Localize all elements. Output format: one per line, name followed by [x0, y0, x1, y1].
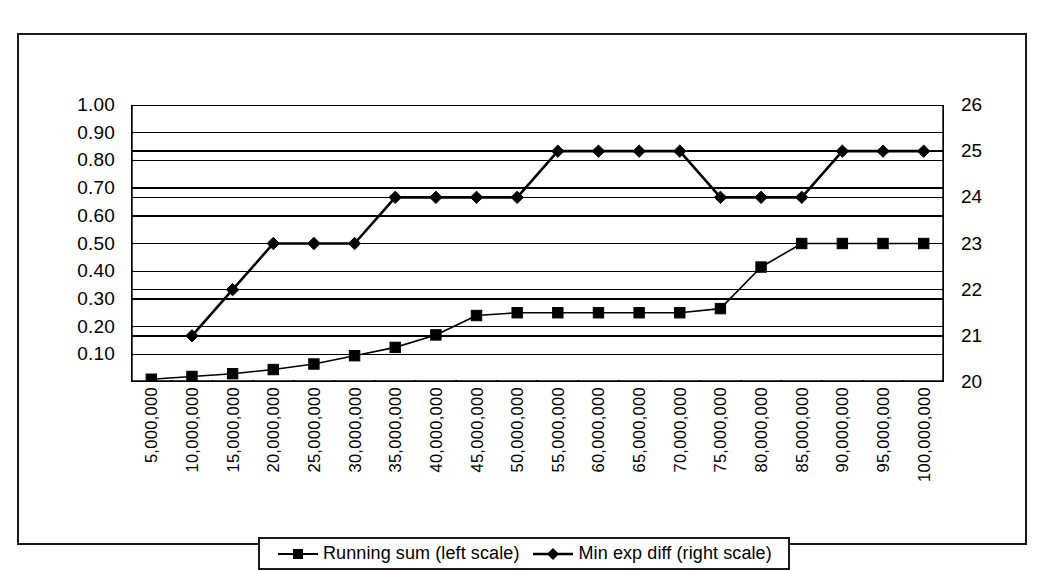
right-axis-tick-label: 24 — [961, 186, 982, 208]
legend-item-label: Running sum (left scale) — [323, 543, 519, 564]
left-axis-tick-label: 0.50 — [77, 233, 115, 255]
data-point-diamond — [917, 145, 929, 157]
x-axis-tick-label: 35,000,000 — [386, 387, 405, 473]
right-axis-tick-label: 23 — [961, 233, 982, 255]
data-point-square — [918, 238, 928, 248]
data-point-square — [797, 238, 807, 248]
left-axis-tick-label: 0.60 — [77, 205, 115, 227]
left-axis-tick-label: 0.70 — [77, 177, 115, 199]
data-point-diamond — [308, 237, 320, 249]
left-axis-tick-label: 0.90 — [77, 122, 115, 144]
left-axis-tick-label: 0.30 — [77, 288, 115, 310]
x-axis-tick-label: 50,000,000 — [508, 387, 527, 473]
x-axis-tick-label: 55,000,000 — [548, 387, 567, 473]
x-axis-tick-label: 80,000,000 — [752, 387, 771, 473]
data-point-square — [756, 262, 766, 272]
x-axis-tick-label: 60,000,000 — [589, 387, 608, 473]
data-point-square — [553, 308, 563, 318]
chart-frame: 0.100.200.300.400.500.600.700.800.901.00… — [17, 33, 1027, 545]
right-axis-tick-label: 25 — [961, 140, 982, 162]
right-axis-tick-label: 20 — [961, 371, 982, 393]
left-axis-tick-label: 1.00 — [77, 94, 115, 116]
left-axis-tick-label: 0.20 — [77, 316, 115, 338]
legend-square-icon — [276, 545, 320, 563]
data-point-diamond — [470, 191, 482, 203]
right-axis-tick-label: 26 — [961, 94, 982, 116]
x-axis-tick-label: 5,000,000 — [142, 387, 161, 463]
chart-plot-svg — [131, 105, 944, 382]
x-axis-tick-label: 20,000,000 — [264, 387, 283, 473]
data-point-square — [675, 308, 685, 318]
left-axis-tick-labels: 0.100.200.300.400.500.600.700.800.901.00 — [59, 105, 123, 382]
legend-item-2: Min exp diff (right scale) — [531, 543, 771, 564]
data-point-diamond — [755, 191, 767, 203]
data-point-square — [512, 308, 522, 318]
data-point-square — [390, 342, 400, 352]
data-point-diamond — [633, 145, 645, 157]
data-point-square — [309, 359, 319, 369]
data-point-diamond — [430, 191, 442, 203]
x-axis-tick-label: 95,000,000 — [874, 387, 893, 473]
legend-item-label: Min exp diff (right scale) — [578, 543, 771, 564]
data-point-square — [187, 371, 197, 381]
left-axis-tick-label: 0.80 — [77, 149, 115, 171]
x-axis-tick-label: 10,000,000 — [182, 387, 201, 473]
data-point-square — [715, 303, 725, 313]
x-axis-tick-label: 65,000,000 — [630, 387, 649, 473]
x-axis-tick-label: 15,000,000 — [223, 387, 242, 473]
chart-legend: Running sum (left scale)Min exp diff (ri… — [258, 537, 790, 570]
right-axis-tick-label: 21 — [961, 325, 982, 347]
data-point-square — [878, 238, 888, 248]
x-axis-tick-label: 90,000,000 — [833, 387, 852, 473]
data-point-square — [837, 238, 847, 248]
data-point-square — [268, 364, 278, 374]
x-axis-tick-label: 70,000,000 — [670, 387, 689, 473]
data-point-square — [593, 308, 603, 318]
series-line-1 — [151, 244, 923, 380]
data-point-square — [349, 350, 359, 360]
left-axis-tick-label: 0.40 — [77, 260, 115, 282]
data-point-diamond — [877, 145, 889, 157]
x-axis-tick-label: 100,000,000 — [914, 387, 933, 482]
data-point-square — [146, 374, 156, 382]
data-point-square — [634, 308, 644, 318]
legend-item-1: Running sum (left scale) — [276, 543, 519, 564]
data-point-square — [471, 310, 481, 320]
data-point-square — [227, 368, 237, 378]
x-axis-tick-label: 25,000,000 — [304, 387, 323, 473]
data-point-diamond — [592, 145, 604, 157]
chart-screenshot: 0.100.200.300.400.500.600.700.800.901.00… — [0, 0, 1044, 571]
right-axis-tick-labels: 20212223242526 — [953, 105, 1013, 382]
legend-diamond-icon — [531, 545, 575, 563]
right-axis-tick-label: 22 — [961, 279, 982, 301]
left-axis-tick-label: 0.10 — [77, 343, 115, 365]
x-axis-tick-label: 75,000,000 — [711, 387, 730, 473]
x-axis-tick-label: 45,000,000 — [467, 387, 486, 473]
plot-area — [131, 105, 944, 382]
data-point-square — [431, 330, 441, 340]
x-axis-tick-label: 30,000,000 — [345, 387, 364, 473]
x-axis-tick-labels: 5,000,00010,000,00015,000,00020,000,0002… — [131, 387, 944, 527]
x-axis-tick-label: 40,000,000 — [426, 387, 445, 473]
x-axis-tick-label: 85,000,000 — [792, 387, 811, 473]
